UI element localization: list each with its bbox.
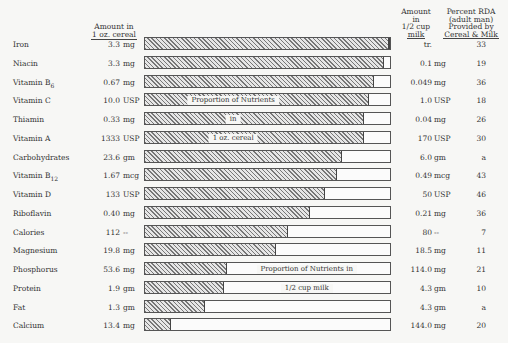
nutrient-name: Calcium bbox=[13, 321, 44, 330]
nutrient-name: Riboflavin bbox=[13, 209, 51, 218]
rda-percent: 19 bbox=[460, 59, 486, 68]
milk-unit: mg bbox=[434, 115, 458, 124]
milk-amount: 50 bbox=[394, 190, 432, 199]
cereal-unit: USP bbox=[123, 96, 143, 105]
cereal-unit: mg bbox=[123, 115, 143, 124]
nutrient-name: Vitamin B6 bbox=[13, 78, 54, 89]
proportion-bar bbox=[144, 206, 391, 219]
cereal-proportion-fill bbox=[145, 113, 364, 124]
proportion-bar bbox=[144, 56, 391, 69]
cereal-proportion-fill bbox=[145, 188, 325, 199]
nutrient-row: Carbohydrates 23.6 gm 6.0 gm a bbox=[0, 149, 508, 167]
proportion-bar: in bbox=[144, 112, 391, 125]
cereal-amount: 1333 bbox=[84, 134, 120, 143]
milk-amount: 170 bbox=[394, 134, 432, 143]
rda-percent: 26 bbox=[460, 115, 486, 124]
nutrient-name: Calories bbox=[13, 228, 44, 237]
nutrient-row: Protein 1.9 gm 1/2 cup milk 4.3 gm 10 bbox=[0, 280, 508, 298]
milk-unit: mg bbox=[434, 321, 458, 330]
nutrient-name: Thiamin bbox=[13, 115, 44, 124]
cereal-proportion-fill bbox=[145, 169, 337, 180]
cereal-unit: mg bbox=[123, 265, 143, 274]
cereal-amount: 0.67 bbox=[84, 78, 120, 87]
cereal-proportion-fill bbox=[145, 301, 205, 312]
proportion-bar: Proportion of Nutrients in bbox=[144, 262, 391, 275]
rda-percent: 33 bbox=[460, 40, 486, 49]
cereal-proportion-fill bbox=[145, 244, 276, 255]
cereal-unit: gm bbox=[123, 284, 143, 293]
milk-unit: mg bbox=[434, 59, 458, 68]
milk-unit: -- bbox=[434, 228, 458, 237]
cereal-proportion-fill bbox=[145, 151, 342, 162]
bar-annotation: Proportion of Nutrients bbox=[187, 96, 278, 105]
rda-percent: 43 bbox=[460, 171, 486, 180]
cereal-amount: 23.6 bbox=[84, 153, 120, 162]
milk-amount: 80 bbox=[394, 228, 432, 237]
rda-percent: 20 bbox=[460, 321, 486, 330]
cereal-amount: 1.9 bbox=[84, 284, 120, 293]
nutrient-name: Vitamin C bbox=[13, 96, 51, 105]
nutrient-row: Magnesium 19.8 mg 18.5 mg 11 bbox=[0, 242, 508, 260]
nutrient-name: Protein bbox=[13, 284, 41, 293]
cereal-unit: USP bbox=[123, 134, 143, 143]
nutrient-row: Vitamin A 1333 USP 1 oz. cereal 170 USP … bbox=[0, 130, 508, 148]
rda-percent: 30 bbox=[460, 134, 486, 143]
proportion-bar bbox=[144, 318, 391, 331]
nutrient-row: Niacin 3.3 mg 0.1 mg 19 bbox=[0, 55, 508, 73]
cereal-unit: mcg bbox=[123, 171, 143, 180]
cereal-unit: USP bbox=[123, 190, 143, 199]
milk-amount: 0.1 bbox=[394, 59, 432, 68]
rda-percent: 36 bbox=[460, 78, 486, 87]
rda-percent: a bbox=[460, 303, 486, 312]
cereal-proportion-fill bbox=[145, 38, 390, 49]
proportion-bar: Proportion of Nutrients bbox=[144, 93, 391, 106]
milk-amount: 0.21 bbox=[394, 209, 432, 218]
milk-amount: 4.3 bbox=[394, 284, 432, 293]
nutrient-name: Fat bbox=[13, 303, 25, 312]
cereal-amount: 1.3 bbox=[84, 303, 120, 312]
milk-unit: mg bbox=[434, 246, 458, 255]
cereal-proportion-fill bbox=[145, 263, 227, 274]
proportion-bar bbox=[144, 75, 391, 88]
cereal-amount: 1.67 bbox=[84, 171, 120, 180]
rda-percent: 46 bbox=[460, 190, 486, 199]
proportion-bar bbox=[144, 243, 391, 256]
milk-unit: mg bbox=[434, 78, 458, 87]
nutrient-row: Vitamin B12 1.67 mcg 0.49 mcg 43 bbox=[0, 167, 508, 185]
bar-annotation: in bbox=[226, 115, 241, 124]
cereal-amount: 0.40 bbox=[84, 209, 120, 218]
proportion-bar bbox=[144, 300, 391, 313]
cereal-unit: mg bbox=[123, 209, 143, 218]
milk-unit: gm bbox=[434, 153, 458, 162]
cereal-amount: 133 bbox=[84, 190, 120, 199]
nutrient-row: Calcium 13.4 mg 144.0 mg 20 bbox=[0, 317, 508, 335]
milk-amount: 114.0 bbox=[394, 265, 432, 274]
cereal-amount: 13.4 bbox=[84, 321, 120, 330]
milk-amount-header: Amount in 1/2 cup milk bbox=[394, 8, 438, 39]
cereal-proportion-fill bbox=[145, 226, 288, 237]
milk-unit: gm bbox=[434, 303, 458, 312]
nutrient-row: Fat 1.3 gm 4.3 gm a bbox=[0, 299, 508, 317]
rda-percent: 21 bbox=[460, 265, 486, 274]
cereal-proportion-fill bbox=[145, 57, 384, 68]
cereal-proportion-fill bbox=[145, 76, 374, 87]
cereal-unit: mg bbox=[123, 246, 143, 255]
cereal-unit: mg bbox=[123, 321, 143, 330]
nutrient-name: Niacin bbox=[13, 59, 38, 68]
cereal-proportion-fill bbox=[145, 207, 310, 218]
cereal-amount: 0.33 bbox=[84, 115, 120, 124]
milk-unit: USP bbox=[434, 134, 458, 143]
nutrient-name: Magnesium bbox=[13, 246, 57, 255]
proportion-bar: 1 oz. cereal bbox=[144, 131, 391, 144]
cereal-amount: 53.6 bbox=[84, 265, 120, 274]
milk-amount: 18.5 bbox=[394, 246, 432, 255]
proportion-bar bbox=[144, 150, 391, 163]
nutrient-row: Phosphorus 53.6 mg Proportion of Nutrien… bbox=[0, 261, 508, 279]
milk-amount: 4.3 bbox=[394, 303, 432, 312]
milk-amount: 6.0 bbox=[394, 153, 432, 162]
rda-percent: 11 bbox=[460, 246, 486, 255]
milk-amount: 1.0 bbox=[394, 96, 432, 105]
milk-unit: mcg bbox=[434, 171, 458, 180]
proportion-bar bbox=[144, 168, 391, 181]
nutrient-name: Vitamin B12 bbox=[13, 171, 58, 182]
